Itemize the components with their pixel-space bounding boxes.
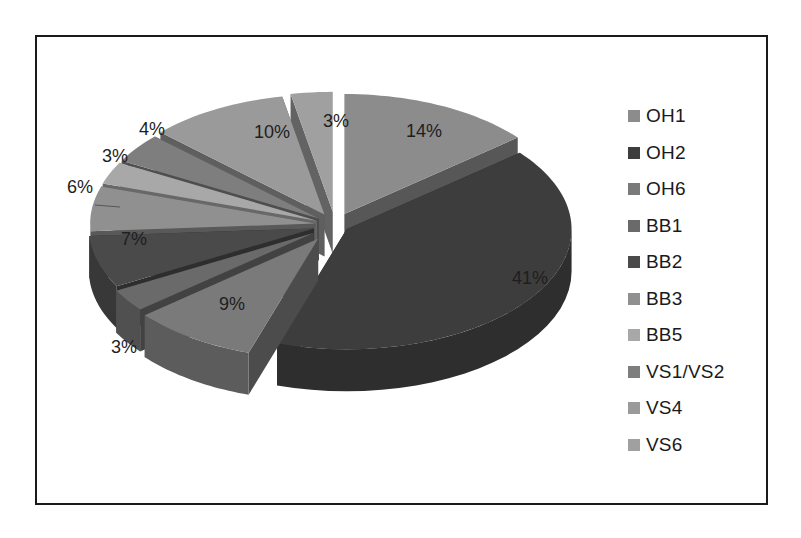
data-label: 10% [254, 122, 290, 142]
legend-label: BB3 [646, 288, 683, 310]
legend-swatch-icon [628, 220, 640, 232]
legend-item-vs4: VS4 [628, 390, 763, 427]
legend-label: BB5 [646, 324, 683, 346]
legend-item-bb2: BB2 [628, 244, 763, 281]
legend-swatch-icon [628, 402, 640, 414]
legend-label: OH1 [646, 105, 686, 127]
data-label: 3% [111, 337, 137, 357]
legend-label: OH2 [646, 142, 686, 164]
legend-swatch-icon [628, 329, 640, 341]
legend-item-vs1-vs2: VS1/VS2 [628, 354, 763, 391]
data-label: 41% [512, 268, 548, 288]
legend-label: VS6 [646, 434, 683, 456]
data-label: 7% [121, 229, 147, 249]
legend-item-bb3: BB3 [628, 281, 763, 318]
legend-swatch-icon [628, 256, 640, 268]
legend-item-vs6: VS6 [628, 427, 763, 464]
data-label: 14% [406, 121, 442, 141]
data-label: 3% [102, 146, 128, 166]
legend-swatch-icon [628, 366, 640, 378]
legend-swatch-icon [628, 439, 640, 451]
legend-swatch-icon [628, 110, 640, 122]
data-label: 6% [67, 177, 93, 197]
legend-item-oh1: OH1 [628, 98, 763, 135]
legend-item-bb5: BB5 [628, 317, 763, 354]
legend-swatch-icon [628, 293, 640, 305]
data-label: 9% [219, 294, 245, 314]
chart-legend: OH1 OH2 OH6 BB1 BB2 BB3 BB5 VS1/VS2 VS4 … [628, 98, 763, 463]
legend-item-oh2: OH2 [628, 135, 763, 172]
legend-item-bb1: BB1 [628, 208, 763, 245]
legend-label: OH6 [646, 178, 686, 200]
data-label: 3% [323, 111, 349, 131]
legend-swatch-icon [628, 183, 640, 195]
legend-label: VS4 [646, 397, 683, 419]
legend-swatch-icon [628, 147, 640, 159]
legend-label: BB1 [646, 215, 683, 237]
legend-label: BB2 [646, 251, 683, 273]
legend-label: VS1/VS2 [646, 361, 725, 383]
data-label: 4% [139, 119, 165, 139]
legend-item-oh6: OH6 [628, 171, 763, 208]
